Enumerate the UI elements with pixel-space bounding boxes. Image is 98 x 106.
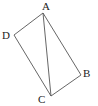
segment-da xyxy=(14,13,43,35)
segment-ab xyxy=(43,13,81,75)
label-a: A xyxy=(42,0,50,12)
label-d: D xyxy=(2,29,10,41)
segment-cd xyxy=(14,35,51,96)
segment-bc xyxy=(51,75,81,96)
segment-ac xyxy=(43,13,51,96)
geometry-diagram: A B C D xyxy=(0,0,98,106)
label-b: B xyxy=(83,67,90,79)
label-c: C xyxy=(38,93,45,105)
